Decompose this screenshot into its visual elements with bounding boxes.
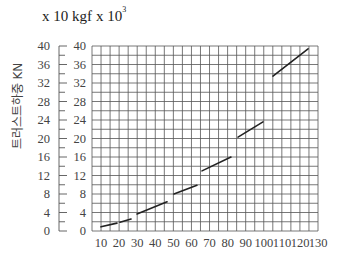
left-y-tick-label: 0 bbox=[44, 224, 50, 238]
left-y-tick-label: 28 bbox=[38, 95, 51, 109]
right-y-tick-label: 32 bbox=[74, 76, 87, 90]
x-tick-label: 60 bbox=[185, 236, 198, 250]
left-y-tick-label: 40 bbox=[38, 39, 51, 53]
right-y-tick-label: 12 bbox=[74, 169, 87, 183]
right-y-tick-label: 40 bbox=[74, 39, 87, 53]
grid bbox=[92, 46, 318, 231]
line-segment bbox=[174, 185, 197, 194]
x-tick-label: 40 bbox=[149, 236, 162, 250]
x-tick-label: 120 bbox=[291, 236, 310, 250]
left-y-tick-label: 16 bbox=[38, 150, 51, 164]
chart-plot: 0481216202428323640048121620242832364010… bbox=[0, 0, 344, 260]
x-tick-label: 20 bbox=[113, 236, 126, 250]
x-tick-label: 50 bbox=[167, 236, 180, 250]
x-tick-label: 30 bbox=[131, 236, 144, 250]
x-tick-label: 90 bbox=[240, 236, 253, 250]
left-y-tick-label: 24 bbox=[38, 113, 51, 127]
x-tick-label: 70 bbox=[203, 236, 216, 250]
right-y-tick-label: 0 bbox=[80, 224, 86, 238]
right-y-tick-label: 28 bbox=[74, 95, 87, 109]
right-y-tick-label: 36 bbox=[74, 58, 87, 72]
right-y-tick-label: 20 bbox=[74, 132, 87, 146]
left-y-tick-label: 4 bbox=[44, 206, 51, 220]
right-y-tick-label: 4 bbox=[80, 206, 87, 220]
x-tick-label: 110 bbox=[273, 236, 291, 250]
line-segment bbox=[101, 223, 117, 227]
x-tick-label: 80 bbox=[221, 236, 234, 250]
right-y-tick-label: 24 bbox=[74, 113, 87, 127]
x-tick-label: 100 bbox=[255, 236, 274, 250]
left-y-tick-label: 36 bbox=[38, 58, 51, 72]
left-y-tick-label: 20 bbox=[38, 132, 51, 146]
series-line bbox=[101, 49, 308, 227]
x-tick-label: 130 bbox=[309, 236, 328, 250]
x-tick-label: 10 bbox=[95, 236, 108, 250]
left-y-tick-label: 8 bbox=[44, 187, 50, 201]
right-y-tick-label: 8 bbox=[80, 187, 86, 201]
line-segment bbox=[202, 157, 231, 171]
right-y-tick-label: 16 bbox=[74, 150, 87, 164]
line-segment bbox=[137, 202, 167, 214]
left-y-tick-label: 12 bbox=[38, 169, 51, 183]
left-y-tick-label: 32 bbox=[38, 76, 51, 90]
left-y-axis bbox=[59, 46, 67, 231]
